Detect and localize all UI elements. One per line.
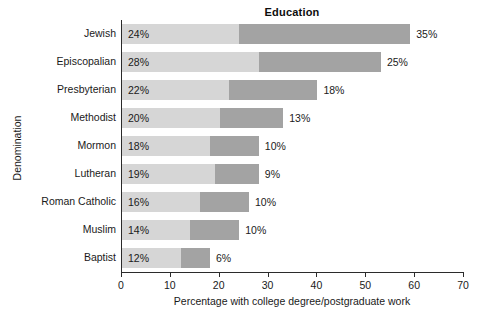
x-axis-tick bbox=[219, 272, 220, 277]
bar-value-label-segment-1: 24% bbox=[128, 28, 149, 40]
bar-row[interactable]: 12% bbox=[122, 248, 210, 268]
category-label: Methodist bbox=[70, 111, 116, 123]
bar-value-label-segment-1: 22% bbox=[128, 84, 149, 96]
category-label: Baptist bbox=[84, 251, 116, 263]
chart-title: Education bbox=[121, 6, 463, 18]
bar-segment-postgraduate bbox=[215, 164, 259, 184]
bar-value-label-segment-2: 9% bbox=[265, 168, 280, 180]
bar-value-label-segment-2: 10% bbox=[255, 196, 276, 208]
bar-value-label-segment-2: 25% bbox=[387, 56, 408, 68]
bar-value-label-segment-1: 20% bbox=[128, 112, 149, 124]
bar-value-label-segment-1: 14% bbox=[128, 224, 149, 236]
bar-segment-postgraduate bbox=[239, 24, 410, 44]
x-axis-tick bbox=[414, 272, 415, 277]
category-label: Episcopalian bbox=[56, 55, 116, 67]
bar-value-label-segment-2: 35% bbox=[416, 28, 437, 40]
bar-value-label-segment-1: 19% bbox=[128, 168, 149, 180]
x-axis-tick-label: 60 bbox=[408, 279, 420, 291]
category-label-column: JewishEpiscopalianPresbyterianMethodistM… bbox=[0, 20, 116, 272]
x-axis-tick bbox=[268, 272, 269, 277]
bar-row[interactable]: 16% bbox=[122, 192, 249, 212]
bar-value-label-segment-1: 16% bbox=[128, 196, 149, 208]
bar-value-label-segment-2: 10% bbox=[245, 224, 266, 236]
bar-segment-postgraduate bbox=[220, 108, 284, 128]
x-axis-tick bbox=[170, 272, 171, 277]
bar-segment-postgraduate bbox=[200, 192, 249, 212]
bar-row[interactable]: 18% bbox=[122, 136, 259, 156]
x-axis-tick-label: 70 bbox=[457, 279, 469, 291]
category-label: Mormon bbox=[77, 139, 116, 151]
x-axis-tick-label: 0 bbox=[118, 279, 124, 291]
bar-value-label-segment-2: 10% bbox=[265, 140, 286, 152]
x-axis-tick bbox=[463, 272, 464, 277]
category-label: Presbyterian bbox=[57, 83, 116, 95]
bar-value-label-segment-1: 18% bbox=[128, 140, 149, 152]
bar-row[interactable]: 22% bbox=[122, 80, 317, 100]
bar-value-label-segment-2: 6% bbox=[216, 252, 231, 264]
bar-value-label-segment-2: 13% bbox=[289, 112, 310, 124]
bar-row[interactable]: 14% bbox=[122, 220, 239, 240]
x-axis-label: Percentage with college degree/postgradu… bbox=[121, 295, 463, 307]
category-label: Lutheran bbox=[75, 167, 116, 179]
bar-value-label-segment-2: 18% bbox=[323, 84, 344, 96]
plot-area: 01020304050607024%35%28%25%22%18%20%13%1… bbox=[121, 20, 463, 272]
bar-row[interactable]: 20% bbox=[122, 108, 283, 128]
x-axis-tick bbox=[365, 272, 366, 277]
x-axis-tick-label: 30 bbox=[262, 279, 274, 291]
bar-segment-postgraduate bbox=[181, 248, 210, 268]
bar-value-label-segment-1: 28% bbox=[128, 56, 149, 68]
education-bar-chart: Education Denomination JewishEpiscopalia… bbox=[0, 0, 484, 319]
x-axis-tick bbox=[316, 272, 317, 277]
category-label: Muslim bbox=[83, 223, 116, 235]
x-axis-tick-label: 20 bbox=[213, 279, 225, 291]
bar-row[interactable]: 24% bbox=[122, 24, 410, 44]
bar-value-label-segment-1: 12% bbox=[128, 252, 149, 264]
bar-segment-postgraduate bbox=[229, 80, 317, 100]
x-axis-tick bbox=[121, 272, 122, 277]
x-axis-tick-label: 40 bbox=[311, 279, 323, 291]
x-axis-line bbox=[121, 272, 463, 273]
category-label: Roman Catholic bbox=[41, 195, 116, 207]
bar-row[interactable]: 28% bbox=[122, 52, 381, 72]
bar-segment-postgraduate bbox=[190, 220, 239, 240]
x-axis-tick-label: 50 bbox=[359, 279, 371, 291]
bar-segment-postgraduate bbox=[259, 52, 381, 72]
bar-segment-postgraduate bbox=[210, 136, 259, 156]
category-label: Jewish bbox=[84, 27, 116, 39]
bar-row[interactable]: 19% bbox=[122, 164, 259, 184]
x-axis-tick-label: 10 bbox=[164, 279, 176, 291]
